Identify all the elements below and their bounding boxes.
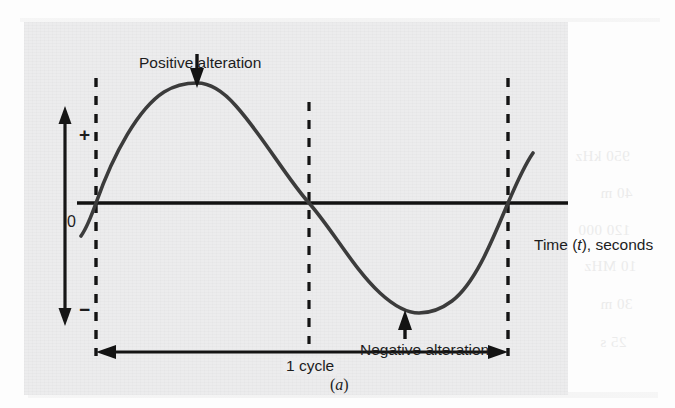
bleed-through-line-2: 40 m <box>600 185 632 202</box>
bleed-through-line-1: 950 kHz <box>575 148 630 165</box>
figure-panel: + − 0 Positive alteration Negative alter… <box>24 22 568 395</box>
axis-label-negative-sign: − <box>79 300 90 319</box>
annotation-positive-alteration: Positive alteration <box>139 55 261 71</box>
axis-label-origin: 0 <box>67 214 76 230</box>
annotation-one-cycle: 1 cycle <box>283 358 337 374</box>
figure-caption: (a) <box>330 377 349 393</box>
axis-label-time: Time (t), seconds <box>534 237 653 253</box>
waveform-plot <box>24 22 568 395</box>
time-axis <box>77 196 568 210</box>
axis-label-time-suffix: ), seconds <box>582 236 654 253</box>
bleed-through-line-6: 25 s <box>600 334 627 351</box>
annotation-negative-alteration: Negative alteration <box>360 342 489 358</box>
bleed-through-line-4: 10 MHz <box>584 258 637 275</box>
negative-alteration-arrow-icon <box>398 310 412 339</box>
bleed-through-line-5: 30 m <box>600 296 632 313</box>
axis-label-time-prefix: Time ( <box>534 236 577 253</box>
page-canvas: 950 kHz 40 m 120 000 10 MHz 30 m 25 s <box>0 0 675 408</box>
axis-label-positive-sign: + <box>79 125 90 144</box>
figure-caption-letter: a <box>335 376 343 393</box>
sine-waveform <box>81 83 533 313</box>
